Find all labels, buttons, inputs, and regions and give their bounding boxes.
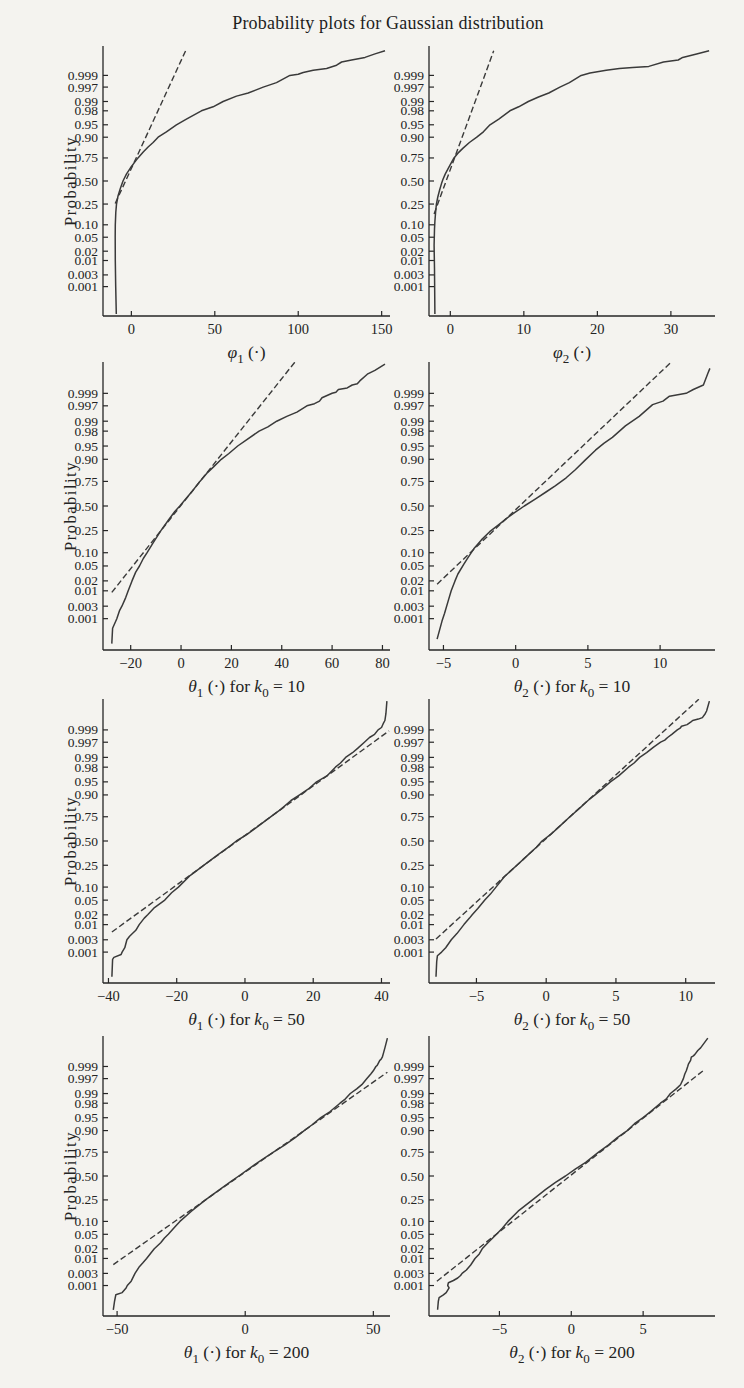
y-tick-label: 0.05 xyxy=(400,893,424,908)
y-tick-label: 0.02 xyxy=(74,907,98,922)
y-tick-label: 0.99 xyxy=(74,414,98,429)
x-tick-label: 20 xyxy=(590,321,605,337)
y-tick-label: 0.003 xyxy=(394,932,425,947)
x-tick-label: 0 xyxy=(241,988,248,1004)
x-tick-label: −40 xyxy=(97,988,120,1004)
y-tick-label: 0.05 xyxy=(74,558,98,573)
y-tick-label: 0.003 xyxy=(68,1266,99,1281)
y-tick-label: 0.99 xyxy=(74,94,98,109)
y-tick-label: 0.003 xyxy=(394,1266,425,1281)
x-tick-label: −5 xyxy=(436,655,451,671)
x-tick-label: −20 xyxy=(119,655,142,671)
y-tick-label: 0.999 xyxy=(68,1059,99,1074)
x-tick-label: 40 xyxy=(374,988,389,1004)
subplot-theta2-k200: 0.0010.0030.010.020.050.100.250.500.750.… xyxy=(394,1036,715,1366)
phi1-empirical-line xyxy=(115,51,385,314)
x-tick-label: 5 xyxy=(640,1321,647,1337)
y-tick-label: 0.02 xyxy=(400,907,424,922)
y-tick-label: 0.95 xyxy=(74,1110,98,1125)
x-tick-label: 100 xyxy=(287,321,309,337)
y-tick-label: 0.75 xyxy=(400,1145,424,1160)
y-tick-label: 0.02 xyxy=(74,1241,98,1256)
x-tick-label: 5 xyxy=(584,655,591,671)
y-tick-label: 0.75 xyxy=(400,150,424,165)
x-tick-label: 50 xyxy=(366,1321,381,1337)
y-tick-label: 0.05 xyxy=(74,1227,98,1242)
x-axis-label: θ1 (·) for k0 = 200 xyxy=(184,1342,310,1366)
x-tick-label: 0 xyxy=(128,321,135,337)
y-tick-label: 0.25 xyxy=(400,858,424,873)
y-tick-label: 0.02 xyxy=(74,573,98,588)
x-tick-label: 40 xyxy=(274,655,289,671)
y-tick-label: 0.02 xyxy=(74,244,98,259)
y-tick-label: 0.25 xyxy=(400,197,424,212)
y-tick-label: 0.99 xyxy=(400,414,424,429)
y-tick-label: 0.003 xyxy=(68,599,99,614)
x-axis-label: θ1 (·) for k0 = 10 xyxy=(188,676,305,700)
x-axis-label: φ2 (·) xyxy=(553,342,591,366)
theta1-k200-gaussian-fit-line xyxy=(113,1072,387,1264)
x-axis-label: θ2 (·) for k0 = 200 xyxy=(509,1342,635,1366)
x-tick-label: 30 xyxy=(664,321,679,337)
y-tick-label: 0.10 xyxy=(400,217,424,232)
probability-plots-canvas: 0.0010.0030.010.020.050.100.250.500.750.… xyxy=(0,0,744,1388)
y-tick-label: 0.50 xyxy=(400,1169,424,1184)
x-tick-label: 10 xyxy=(653,655,668,671)
y-tick-label: 0.99 xyxy=(74,1086,98,1101)
y-tick-label: 0.02 xyxy=(400,244,424,259)
theta2-k200-gaussian-fit-line xyxy=(437,1069,705,1281)
theta2-k50-empirical-line xyxy=(436,701,709,977)
y-tick-label: 0.05 xyxy=(400,1227,424,1242)
y-axis-label: Probability xyxy=(61,136,80,226)
theta1-k10-gaussian-fit-line xyxy=(112,362,295,592)
y-tick-label: 0.02 xyxy=(400,573,424,588)
x-tick-label: 0 xyxy=(242,1321,249,1337)
y-axis-label: Probability xyxy=(61,1131,80,1221)
y-axis-label: Probability xyxy=(61,796,80,886)
subplot-theta2-k50: 0.0010.0030.010.020.050.100.250.500.750.… xyxy=(394,699,715,1033)
y-tick-label: 0.95 xyxy=(400,1110,424,1125)
x-tick-label: −5 xyxy=(492,1321,507,1337)
y-tick-label: 0.90 xyxy=(400,787,424,802)
x-tick-label: 80 xyxy=(375,655,390,671)
theta1-k50-empirical-line xyxy=(112,701,387,977)
y-tick-label: 0.10 xyxy=(400,880,424,895)
y-tick-label: 0.99 xyxy=(400,94,424,109)
y-tick-label: 0.999 xyxy=(68,722,99,737)
subplot-theta1-k200: 0.0010.0030.010.020.050.100.250.500.750.… xyxy=(61,1036,390,1366)
phi2-gaussian-fit-line xyxy=(434,51,494,214)
theta1-k200-empirical-line xyxy=(113,1038,387,1310)
phi1-gaussian-fit-line xyxy=(115,51,185,204)
theta2-k10-empirical-line xyxy=(437,368,710,639)
y-tick-label: 0.999 xyxy=(394,1059,425,1074)
theta1-k50-gaussian-fit-line xyxy=(112,731,389,932)
x-tick-label: 150 xyxy=(371,321,393,337)
x-axis-label: φ1 (·) xyxy=(227,342,265,366)
y-tick-label: 0.003 xyxy=(394,599,425,614)
subplot-theta1-k50: 0.0010.0030.010.020.050.100.250.500.750.… xyxy=(61,699,390,1033)
x-tick-label: 20 xyxy=(224,655,239,671)
x-tick-label: 0 xyxy=(447,321,454,337)
x-tick-label: −5 xyxy=(469,988,484,1004)
y-tick-label: 0.50 xyxy=(400,174,424,189)
y-tick-label: 0.50 xyxy=(400,499,424,514)
y-axis-label: Probability xyxy=(61,461,80,551)
y-tick-label: 0.10 xyxy=(400,545,424,560)
x-tick-label: 0 xyxy=(512,655,519,671)
y-tick-label: 0.999 xyxy=(394,386,425,401)
theta2-k10-gaussian-fit-line xyxy=(437,362,671,584)
subplot-phi2: 0.0010.0030.010.020.050.100.250.500.750.… xyxy=(394,46,715,366)
x-tick-label: 20 xyxy=(306,988,321,1004)
x-tick-label: 0 xyxy=(568,1321,575,1337)
y-tick-label: 0.05 xyxy=(74,893,98,908)
y-tick-label: 0.95 xyxy=(74,117,98,132)
y-tick-label: 0.02 xyxy=(400,1241,424,1256)
y-tick-label: 0.99 xyxy=(400,750,424,765)
y-tick-label: 0.05 xyxy=(400,558,424,573)
x-tick-label: 0 xyxy=(177,655,184,671)
y-tick-label: 0.50 xyxy=(400,834,424,849)
x-tick-label: −20 xyxy=(165,988,188,1004)
x-axis-label: θ1 (·) for k0 = 50 xyxy=(188,1009,305,1033)
x-tick-label: 5 xyxy=(612,988,619,1004)
y-tick-label: 0.10 xyxy=(400,1214,424,1229)
